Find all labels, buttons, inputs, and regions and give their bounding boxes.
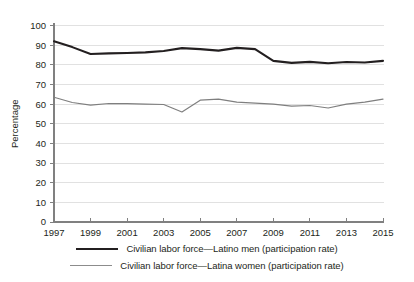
legend-item: Civilian labor force—Latina women (parti… (0, 257, 414, 274)
x-tick-label: 2001 (117, 227, 138, 238)
y-tick-label: 20 (35, 177, 46, 188)
x-tick-label: 2003 (153, 227, 174, 238)
series-line-latina-women (54, 97, 383, 112)
data-series-group (54, 41, 383, 112)
x-tick-label: 1999 (80, 227, 101, 238)
x-tick-label: 2009 (263, 227, 284, 238)
legend-label-latina-women: Civilian labor force—Latina women (parti… (120, 260, 343, 271)
y-tick-label: 70 (35, 79, 46, 90)
line-chart-plot: 0102030405060708090100 19971999200120032… (0, 0, 414, 240)
y-tick-label: 40 (35, 138, 46, 149)
x-axis-ticks-group: 1997199920012003200520072009201120132015 (43, 218, 393, 238)
legend-swatch-latino-men (76, 248, 118, 250)
y-axis-title: Percentage (9, 99, 20, 148)
y-tick-label: 90 (35, 40, 46, 51)
legend-label-latino-men: Civilian labor force—Latino men (partici… (126, 243, 337, 254)
y-tick-label: 50 (35, 118, 46, 129)
x-tick-label: 1997 (43, 227, 64, 238)
legend-item: Civilian labor force—Latino men (partici… (0, 240, 414, 257)
y-axis-ticks-group: 0102030405060708090100 (30, 20, 54, 228)
series-line-latino-men (54, 41, 383, 63)
chart-figure: 0102030405060708090100 19971999200120032… (0, 0, 414, 282)
chart-legend: Civilian labor force—Latino men (partici… (0, 240, 414, 274)
legend-swatch-latina-women (70, 265, 112, 266)
gridlines-group (54, 26, 384, 203)
y-tick-label: 30 (35, 157, 46, 168)
x-tick-label: 2013 (336, 227, 357, 238)
y-tick-label: 0 (41, 216, 46, 227)
x-tick-label: 2015 (372, 227, 393, 238)
x-tick-label: 2005 (190, 227, 211, 238)
y-tick-label: 80 (35, 59, 46, 70)
y-tick-label: 100 (30, 20, 46, 31)
y-tick-label: 60 (35, 99, 46, 110)
x-tick-label: 2007 (226, 227, 247, 238)
x-tick-label: 2011 (300, 227, 320, 238)
y-tick-label: 10 (35, 197, 46, 208)
